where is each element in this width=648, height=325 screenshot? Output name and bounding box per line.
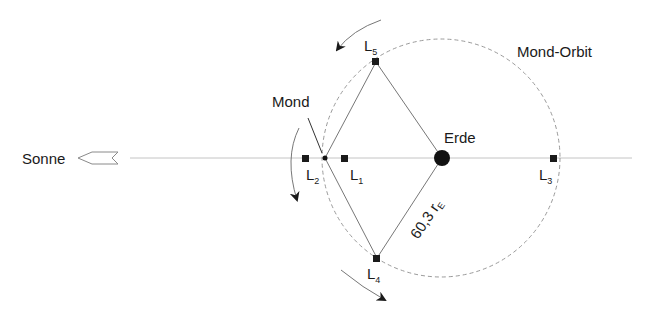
l4-label: L4 bbox=[367, 265, 380, 285]
orbit-label: Mond-Orbit bbox=[517, 43, 593, 60]
l2-point bbox=[302, 155, 309, 162]
l5-label: L5 bbox=[364, 37, 377, 57]
l3-point bbox=[550, 155, 557, 162]
l2-label: L2 bbox=[306, 166, 319, 186]
earth-label: Erde bbox=[444, 129, 476, 146]
distance-label: 60,3 rE bbox=[406, 195, 447, 242]
moon-icon bbox=[323, 156, 328, 161]
sun-label: Sonne bbox=[22, 150, 65, 167]
orbit-arrow-top-icon bbox=[337, 20, 381, 50]
l1-label: L1 bbox=[350, 166, 363, 186]
moon-pointer-line bbox=[308, 118, 322, 153]
l3-label: L3 bbox=[539, 166, 552, 186]
l4-point bbox=[373, 255, 380, 262]
line-l5-earth bbox=[376, 62, 442, 158]
earth-icon bbox=[434, 150, 450, 166]
lagrange-diagram: Sonne Mond Erde Mond-Orbit 60,3 rE L1 L2… bbox=[0, 0, 648, 325]
l5-point bbox=[372, 58, 379, 65]
moon-label: Mond bbox=[272, 93, 310, 110]
sun-arrow-icon bbox=[78, 152, 118, 164]
orbit-arrow-left-icon bbox=[291, 128, 299, 200]
l1-point bbox=[341, 155, 348, 162]
